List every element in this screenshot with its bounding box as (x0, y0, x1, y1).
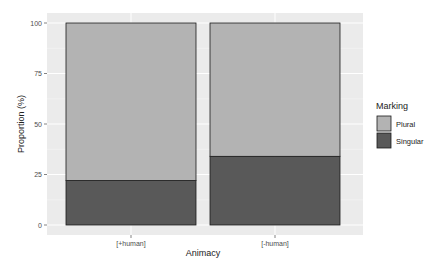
y-tick-label: 25 (34, 171, 42, 178)
legend: Marking PluralSingular (376, 101, 424, 148)
y-axis: 0255075100 (30, 20, 47, 229)
y-tick-label: 75 (34, 70, 42, 77)
legend-swatch-plural (377, 116, 391, 131)
x-tick-label: [-human] (261, 240, 289, 248)
y-axis-title: Proportion (%) (16, 95, 26, 153)
y-tick-label: 0 (38, 222, 42, 229)
bar-segment-plural (66, 23, 196, 181)
x-axis: [+human][-human] (116, 235, 289, 248)
x-tick-label: [+human] (116, 240, 145, 248)
stacked-bar-chart: 0255075100 [+human][-human] Proportion (… (0, 0, 441, 268)
bar-segment-plural (210, 23, 340, 156)
legend-label-plural: Plural (396, 120, 416, 129)
bar-segment-singular (210, 156, 340, 225)
y-tick-label: 100 (30, 20, 42, 27)
legend-label-singular: Singular (396, 137, 424, 146)
x-axis-title: Animacy (186, 248, 221, 258)
bar-segment-singular (66, 181, 196, 225)
y-tick-label: 50 (34, 121, 42, 128)
legend-swatch-singular (377, 133, 391, 148)
legend-title: Marking (376, 101, 408, 111)
